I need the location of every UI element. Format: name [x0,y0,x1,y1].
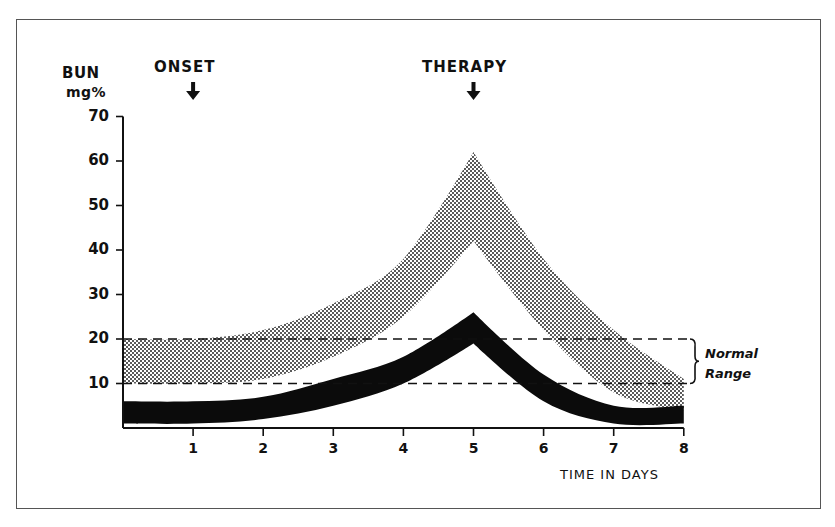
down-arrow-icon [467,82,481,100]
y-tick-label: 30 [79,285,109,303]
y-tick-label: 10 [79,374,109,392]
normal-label-line2: Range [705,364,758,384]
x-tick-label: 7 [604,440,624,456]
therapy-annotation: THERAPY [422,58,507,76]
x-tick-label: 4 [393,440,413,456]
y-tick-label: 60 [79,151,109,169]
x-tick-label: 3 [323,440,343,456]
y-axis-label-line2: mg% [66,84,106,100]
normal-label-line1: Normal [705,344,758,364]
down-arrow-icon [186,82,200,100]
brace-icon [690,339,699,384]
x-tick-label: 8 [674,440,694,456]
onset-annotation: ONSET [154,58,216,76]
x-axis-label: TIME IN DAYS [560,467,659,482]
x-tick-label: 1 [183,440,203,456]
y-tick-label: 70 [79,107,109,125]
y-tick-label: 40 [79,240,109,258]
x-tick-label: 5 [464,440,484,456]
normal-range-label: Normal Range [705,344,758,384]
x-tick-label: 6 [534,440,554,456]
y-axis-label-line1: BUN [62,64,100,82]
chart-plot [0,0,835,527]
y-tick-label: 20 [79,329,109,347]
x-tick-label: 2 [253,440,273,456]
y-tick-label: 50 [79,196,109,214]
